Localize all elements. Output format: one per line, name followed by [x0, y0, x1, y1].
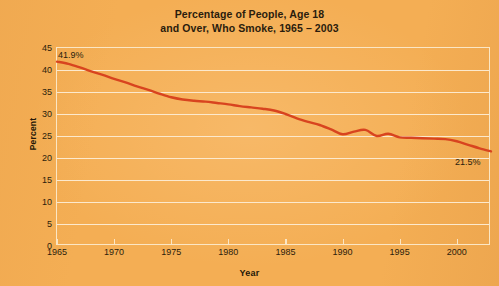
start-value-label: 41.9%	[58, 50, 84, 60]
y-axis-tick-label: 5	[47, 219, 52, 229]
chart-title: Percentage of People, Age 18 and Over, W…	[0, 8, 499, 35]
x-axis-tick-label: 1975	[161, 247, 181, 257]
y-axis-tick-label: 45	[42, 43, 52, 53]
plot-area: 454035302520151050 196519701975198019851…	[56, 47, 490, 245]
y-axis-tick-label: 15	[42, 175, 52, 185]
chart-figure: Percentage of People, Age 18 and Over, W…	[0, 0, 499, 286]
chart-title-line-1: Percentage of People, Age 18	[0, 8, 499, 22]
x-axis-tick-label: 2000	[447, 247, 467, 257]
x-axis-tick-label: 1980	[218, 247, 238, 257]
x-axis-tick-label: 1965	[47, 247, 67, 257]
x-axis-label: Year	[0, 268, 499, 278]
y-axis-tick-label: 25	[42, 131, 52, 141]
x-axis-tick-label: 1995	[390, 247, 410, 257]
y-axis-tick-label: 35	[42, 87, 52, 97]
x-axis-tick-label: 1990	[333, 247, 353, 257]
y-axis-tick-label: 20	[42, 153, 52, 163]
x-axis-tick-label: 1985	[275, 247, 295, 257]
y-axis-tick-label: 30	[42, 109, 52, 119]
data-line-path	[57, 62, 491, 152]
end-value-label: 21.5%	[455, 157, 481, 167]
chart-title-line-2: and Over, Who Smoke, 1965 – 2003	[0, 22, 499, 36]
smoking-rate-line	[57, 48, 491, 246]
y-axis-label: Percent	[28, 99, 38, 169]
y-axis-tick-label: 10	[42, 197, 52, 207]
y-axis-tick-label: 40	[42, 65, 52, 75]
x-axis-tick-label: 1970	[104, 247, 124, 257]
